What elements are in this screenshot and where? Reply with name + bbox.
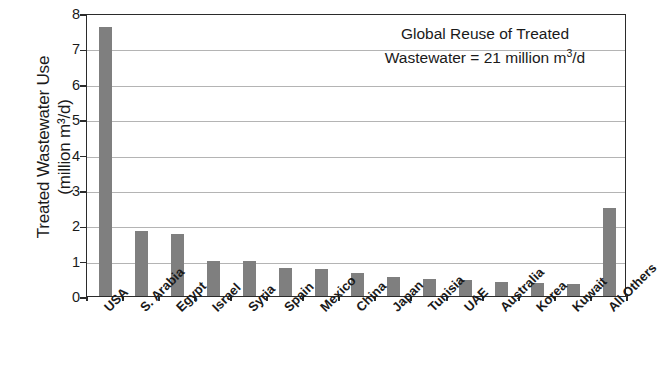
- x-axis-category-label: Mexico: [317, 273, 359, 315]
- figure-caption-clipped: [2, 360, 542, 369]
- x-axis-category-label: Tunisia: [425, 273, 467, 315]
- annotation-line-2-post: /d: [572, 49, 585, 66]
- x-axis-category-label: All Others: [605, 260, 660, 315]
- annotation-line-2-pre: Wastewater = 21 million m: [385, 49, 567, 66]
- annotation-line-2: Wastewater = 21 million m3/d: [335, 46, 635, 70]
- figure-bar-chart: Treated Wastewater Use (million m³/d) 01…: [0, 0, 660, 369]
- chart-annotation: Global Reuse of Treated Wastewater = 21 …: [335, 22, 635, 70]
- x-axis-category-label: UAE: [461, 285, 491, 315]
- x-axis-category-label: Syria: [245, 282, 278, 315]
- x-axis-category-label: Kuwait: [569, 274, 610, 315]
- annotation-line-1: Global Reuse of Treated: [335, 22, 635, 46]
- x-axis-category-label: USA: [101, 285, 131, 315]
- x-axis-category-label: Israel: [209, 280, 244, 315]
- x-axis-category-label: Japan: [389, 277, 426, 314]
- x-axis-category-label: China: [353, 278, 389, 314]
- x-axis-category-label: Egypt: [173, 278, 209, 314]
- x-axis-category-label: Spain: [281, 279, 317, 315]
